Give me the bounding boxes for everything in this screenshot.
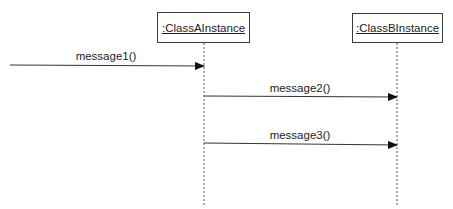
message2-label: message2() <box>270 82 331 94</box>
message3-arrow <box>204 143 397 145</box>
message2-arrow <box>204 96 397 97</box>
message1-arrow <box>10 65 204 66</box>
object-box-class-a[interactable]: :ClassAInstance <box>157 12 250 43</box>
message3-label: message3() <box>270 129 331 141</box>
message1-label: message1() <box>76 50 137 62</box>
object-label-class-a: :ClassAInstance <box>162 22 245 34</box>
object-box-class-b[interactable]: :ClassBInstance <box>352 13 443 43</box>
object-label-class-b: :ClassBInstance <box>356 22 439 34</box>
